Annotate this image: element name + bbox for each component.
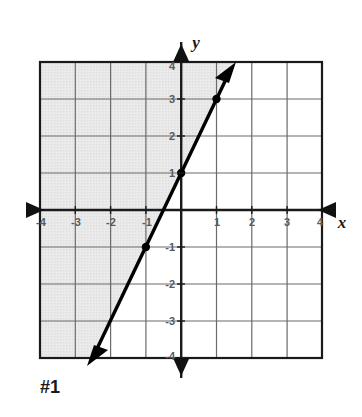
x-tick-label: -2 — [106, 216, 116, 228]
point-marker — [212, 95, 220, 103]
graph-figure: -4 -3 -2 -1 1 2 3 4 4 3 2 1 -1 -2 -3 -4 … — [0, 0, 362, 417]
x-tick-label: 1 — [214, 216, 220, 228]
point-marker — [142, 243, 150, 251]
x-tick-label: -4 — [36, 216, 47, 228]
y-axis-label: y — [190, 33, 200, 52]
y-tick-label: -1 — [165, 241, 175, 253]
x-tick-label: -1 — [142, 216, 152, 228]
y-tick-label: 2 — [169, 130, 175, 142]
coordinate-plane-graphic: -4 -3 -2 -1 1 2 3 4 4 3 2 1 -1 -2 -3 -4 … — [0, 0, 362, 417]
x-tick-label: 2 — [249, 216, 255, 228]
y-tick-label: -2 — [165, 278, 175, 290]
x-tick-label: -3 — [71, 216, 81, 228]
x-tick-label: 4 — [317, 216, 324, 228]
y-tick-label: -4 — [165, 350, 176, 362]
problem-number-label: #1 — [40, 377, 60, 397]
y-tick-label: 3 — [169, 93, 175, 105]
x-tick-label: 3 — [284, 216, 290, 228]
y-tick-label: 1 — [169, 167, 175, 179]
x-axis-label: x — [337, 213, 347, 232]
y-tick-label: -3 — [165, 315, 175, 327]
y-tick-label: 4 — [169, 60, 176, 72]
